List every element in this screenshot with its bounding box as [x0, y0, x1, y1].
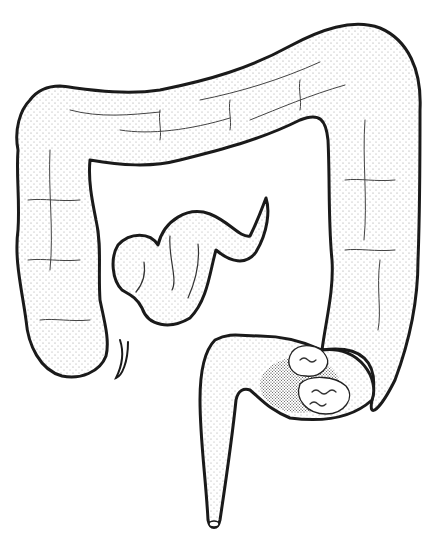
colon-illustration: Line illustration of the large intestine…: [0, 0, 445, 545]
appendix: [116, 340, 128, 378]
rectum-opening: [209, 521, 219, 527]
colon-drawing: [0, 0, 445, 545]
small-intestine: [113, 198, 268, 325]
sigmoid-rectum: [200, 335, 374, 528]
